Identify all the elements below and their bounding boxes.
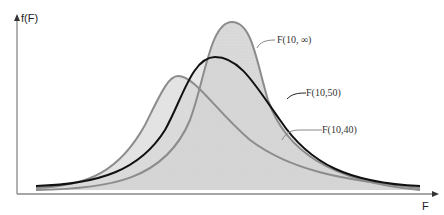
callout-leader-f-10-50 xyxy=(287,93,306,99)
curve-f-10-50-fill xyxy=(36,57,420,190)
y-axis-label: f(F) xyxy=(21,12,38,24)
curve-label-f-10-50: F(10,50) xyxy=(306,87,341,99)
x-axis-arrow-icon xyxy=(432,191,439,197)
f-distribution-diagram: f(F) F F(10, ∞) F(10,50) F(10,40) xyxy=(0,0,444,215)
x-axis-label: F xyxy=(422,200,429,212)
callout-leader-f-10-inf xyxy=(257,40,275,48)
curve-label-f-10-40: F(10,40) xyxy=(322,124,357,136)
curve-label-f-10-inf: F(10, ∞) xyxy=(277,34,311,46)
y-axis-arrow-icon xyxy=(14,14,20,21)
